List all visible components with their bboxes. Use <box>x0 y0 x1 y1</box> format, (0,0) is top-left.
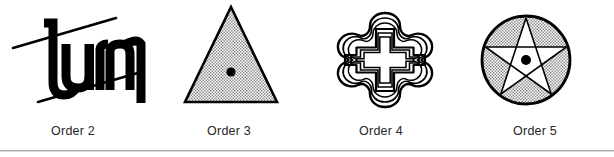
caption-order-3: Order 3 <box>152 124 306 138</box>
nested-quatrefoil-cross <box>308 0 462 120</box>
triangle-shape <box>185 7 277 102</box>
panel-order-3 <box>154 0 308 120</box>
panel-order-4 <box>308 0 462 120</box>
turn-ambigram <box>0 0 154 120</box>
turn-ambigram-strokes <box>13 18 141 103</box>
caption-order-2: Order 2 <box>0 124 150 138</box>
caption-order-5: Order 5 <box>458 124 612 138</box>
panel-order-5 <box>460 0 614 120</box>
center-dot <box>226 67 235 76</box>
caption-order-4: Order 4 <box>304 124 458 138</box>
rotational-symmetry-figure: Order 2 Order 3 Order 4 Order 5 <box>0 0 614 157</box>
bottom-divider-shadow <box>0 151 614 152</box>
figure-caption-row: Order 2 Order 3 Order 4 Order 5 <box>0 120 614 148</box>
figure-artwork-row <box>0 0 614 120</box>
quatrefoil-outlines <box>338 13 432 107</box>
stippled-triangle <box>154 0 308 120</box>
center-dot <box>521 55 531 65</box>
panel-order-2 <box>0 0 154 120</box>
pentagram-in-circle <box>460 0 614 120</box>
